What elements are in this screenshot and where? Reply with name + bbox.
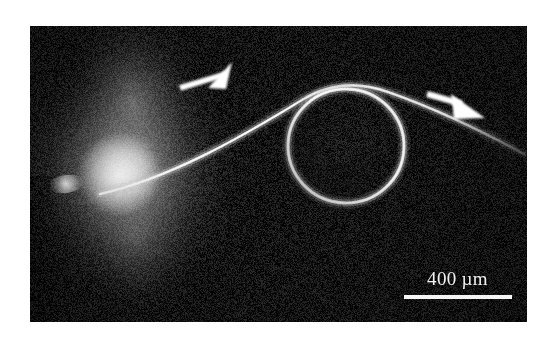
scale-bar: 400 µm	[400, 269, 515, 299]
scale-bar-line	[404, 295, 512, 299]
scale-bar-label: 400 µm	[400, 269, 515, 289]
micrograph-image: 400 µm	[30, 26, 527, 322]
figure-root: 400 µm	[0, 0, 550, 337]
